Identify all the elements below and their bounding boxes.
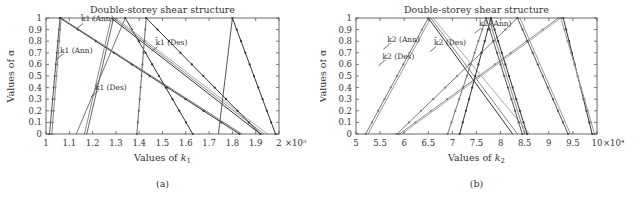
data-marker — [137, 121, 139, 123]
y-axis-label: Values of α — [5, 49, 16, 104]
y-tick-label: 0 — [347, 129, 352, 139]
y-tick-label: 0.7 — [338, 48, 352, 58]
data-marker — [580, 87, 582, 89]
x-tick-label: 8.5 — [518, 138, 532, 148]
data-marker — [496, 52, 498, 54]
data-marker — [139, 98, 141, 100]
x-tick-label: 1.4 — [132, 138, 146, 148]
data-marker — [236, 110, 238, 112]
x-axis-label: Values of k2 — [447, 152, 505, 165]
y-tick-label: 0.2 — [338, 106, 352, 116]
data-marker — [508, 75, 510, 77]
data-marker — [432, 98, 434, 100]
data-marker — [253, 75, 255, 77]
data-marker — [143, 40, 145, 42]
x-multiplier: ×10⁵ — [285, 138, 307, 148]
annotation-arrow-icon — [383, 44, 389, 49]
data-marker — [165, 87, 167, 89]
data-marker — [158, 75, 160, 77]
data-marker — [55, 75, 57, 77]
data-marker — [408, 121, 410, 123]
x-tick-label: 1.6 — [179, 138, 193, 148]
data-marker — [454, 110, 456, 112]
data-marker — [519, 110, 521, 112]
data-marker — [420, 110, 422, 112]
data-marker — [466, 75, 468, 77]
series-annotation: k̄2 (Ann) — [479, 18, 512, 28]
data-marker — [248, 121, 250, 123]
y-tick-label: 0.3 — [28, 94, 42, 104]
data-marker — [56, 63, 58, 65]
x-tick-label: 6 — [401, 138, 406, 148]
data-marker — [236, 29, 238, 31]
data-marker — [52, 98, 54, 100]
data-marker — [512, 87, 514, 89]
data-marker — [515, 98, 517, 100]
data-marker — [577, 75, 579, 77]
chart-b-canvas: Double-storey shear structure55.566.577.… — [320, 0, 639, 197]
data-marker — [458, 98, 460, 100]
data-marker — [456, 75, 458, 77]
data-marker — [54, 87, 56, 89]
data-marker — [396, 75, 398, 77]
x-tick-label: 1.5 — [156, 138, 170, 148]
y-tick-label: 0.9 — [28, 25, 42, 35]
y-tick-label: 0.2 — [28, 106, 42, 116]
data-marker — [421, 29, 423, 31]
data-marker — [570, 52, 572, 54]
data-marker — [504, 29, 506, 31]
data-marker — [521, 29, 523, 31]
data-marker — [487, 29, 489, 31]
data-marker — [510, 98, 512, 100]
annotation-arrow-icon — [77, 23, 83, 28]
data-marker — [402, 63, 404, 65]
data-line — [87, 18, 114, 134]
y-tick-label: 0.4 — [28, 83, 42, 93]
data-marker — [178, 110, 180, 112]
data-marker — [139, 87, 141, 89]
x-tick-label: 1.2 — [86, 138, 100, 148]
x-tick-label: 5.5 — [373, 138, 387, 148]
y-tick-label: 1 — [347, 13, 352, 23]
chart-panel-b: Double-storey shear structure55.566.577.… — [320, 0, 639, 197]
data-marker — [141, 63, 143, 65]
data-marker — [244, 52, 246, 54]
annotation-arrow-icon — [379, 61, 385, 66]
data-marker — [151, 63, 153, 65]
data-marker — [590, 121, 592, 123]
data-marker — [480, 52, 482, 54]
y-tick-label: 0.3 — [338, 94, 352, 104]
x-tick-label: 1.9 — [249, 138, 263, 148]
data-marker — [468, 98, 470, 100]
y-tick-label: 0.8 — [28, 36, 42, 46]
x-tick-label: 2 — [276, 138, 281, 148]
data-marker — [450, 121, 452, 123]
data-marker — [566, 40, 568, 42]
data-marker — [471, 87, 473, 89]
data-marker — [503, 75, 505, 77]
x-tick-label: 9 — [546, 138, 551, 148]
data-marker — [532, 52, 534, 54]
y-tick-label: 0.5 — [28, 71, 42, 81]
y-tick-label: 0.4 — [338, 83, 352, 93]
data-line — [489, 18, 525, 134]
y-tick-label: 0.8 — [338, 36, 352, 46]
data-marker — [185, 121, 187, 123]
annotation-arrow-icon — [430, 47, 436, 52]
data-marker — [493, 29, 495, 31]
x-tick-label: 1.8 — [226, 138, 240, 148]
x-tick-label: 6.5 — [422, 138, 436, 148]
chart-title: Double-storey shear structure — [90, 4, 235, 15]
x-tick-label: 10 — [592, 138, 603, 148]
y-tick-label: 0.1 — [338, 117, 352, 127]
x-tick-label: 1 — [43, 138, 48, 148]
data-marker — [565, 29, 567, 31]
data-marker — [202, 75, 204, 77]
data-marker — [225, 98, 227, 100]
data-marker — [557, 110, 559, 112]
data-marker — [501, 52, 503, 54]
data-marker — [504, 63, 506, 65]
x-tick-label: 5 — [353, 138, 358, 148]
figure-caption: (b) — [470, 178, 484, 189]
data-marker — [518, 121, 520, 123]
